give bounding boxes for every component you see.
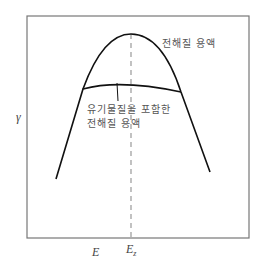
upper-curve-label: 전해질 용액 (162, 35, 216, 50)
x-axis-label: E (92, 245, 99, 260)
leader-line (117, 83, 118, 101)
lower-curve-label-line1: 유기물질을 포함한 (87, 101, 171, 116)
ez-label-sub: z (133, 249, 136, 258)
diagram-canvas (0, 0, 264, 273)
y-axis-label: γ (16, 110, 21, 125)
organic-electrolyte-curve (56, 85, 181, 179)
ez-label: Ez (126, 242, 136, 258)
lower-curve-label-line2: 전해질 용액 (87, 115, 141, 130)
